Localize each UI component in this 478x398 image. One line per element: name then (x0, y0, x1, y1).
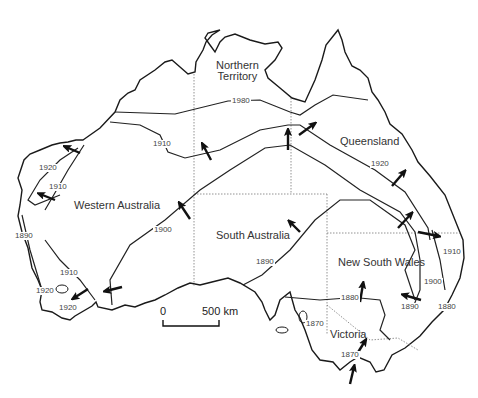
year-label: 1920 (370, 160, 390, 168)
scale-start-label: 0 (160, 306, 166, 317)
year-label: 1890 (255, 258, 275, 266)
year-label: 1870 (340, 351, 360, 359)
state-label-northern-territory: Northern Territory (216, 60, 259, 82)
year-label: 1920 (58, 304, 78, 312)
state-label-queensland: Queensland (340, 136, 399, 147)
isolines (22, 95, 445, 340)
year-label: 1900 (153, 226, 173, 234)
scale-end-label: 500 km (202, 306, 238, 317)
state-label-new-south-wales: New South Wales (338, 257, 425, 268)
year-label: 1910 (59, 269, 79, 277)
year-label: 1920 (35, 287, 55, 295)
year-label: 1910 (152, 140, 172, 148)
year-label: 1880 (340, 294, 360, 302)
nt-label-line2: Territory (216, 71, 259, 82)
year-label: 1890 (400, 303, 420, 311)
year-label: 1910 (48, 183, 68, 191)
island-outline (276, 327, 288, 333)
state-label-south-australia: South Australia (216, 230, 290, 241)
scale-bar (163, 320, 219, 326)
year-label: 1980 (231, 97, 251, 105)
year-label: 1910 (442, 248, 462, 256)
year-label: 1920 (38, 164, 58, 172)
state-label-victoria: Victoria (330, 329, 366, 340)
year-label: 1890 (14, 232, 34, 240)
year-label: 1870 (305, 320, 325, 328)
year-label: 1880 (437, 303, 457, 311)
year-label: 1900 (423, 278, 443, 286)
island-outline (56, 285, 68, 293)
state-label-western-australia: Western Australia (74, 200, 160, 211)
